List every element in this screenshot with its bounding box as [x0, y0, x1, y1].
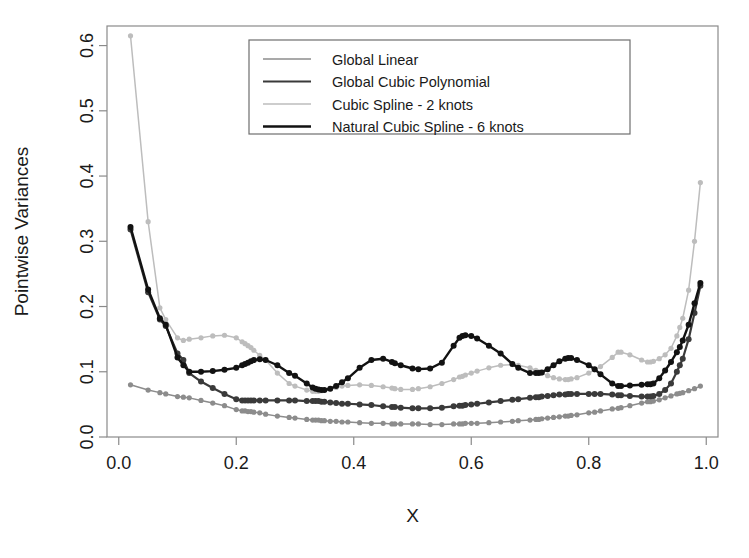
- data-point: [468, 401, 474, 407]
- data-point: [369, 383, 374, 388]
- data-point: [469, 370, 474, 375]
- data-point: [157, 390, 162, 395]
- data-point: [686, 288, 691, 293]
- data-point: [592, 391, 598, 397]
- data-point: [527, 370, 533, 376]
- data-point: [392, 421, 397, 426]
- data-point: [527, 395, 533, 401]
- data-point: [574, 357, 580, 363]
- data-point: [475, 369, 480, 374]
- data-point: [639, 382, 645, 388]
- data-point: [257, 356, 263, 362]
- data-point: [287, 381, 292, 386]
- data-point: [251, 348, 256, 353]
- data-point: [698, 384, 703, 389]
- data-point: [451, 343, 457, 349]
- legend-label-3: Natural Cubic Spline - 6 knots: [332, 119, 524, 135]
- data-point: [157, 315, 163, 321]
- y-tick-label: 0.6: [77, 33, 97, 58]
- data-point: [657, 397, 662, 402]
- data-point: [569, 376, 574, 381]
- data-point: [181, 395, 186, 400]
- data-point: [498, 398, 504, 404]
- data-point: [545, 366, 551, 372]
- data-point: [233, 365, 239, 371]
- data-point: [345, 401, 351, 407]
- data-point: [510, 419, 515, 424]
- data-point: [515, 396, 521, 402]
- data-point: [677, 362, 683, 368]
- data-point: [415, 366, 421, 372]
- data-point: [574, 412, 579, 417]
- y-tick-label: 0.5: [77, 98, 97, 123]
- data-point: [368, 357, 374, 363]
- data-point: [198, 335, 203, 340]
- data-point: [557, 376, 562, 381]
- data-point: [427, 405, 433, 411]
- data-point: [321, 387, 327, 393]
- data-point: [222, 391, 228, 397]
- data-point: [187, 337, 192, 342]
- data-point: [680, 337, 686, 343]
- data-point: [627, 382, 633, 388]
- data-point: [263, 357, 269, 363]
- data-point: [674, 333, 679, 338]
- data-point: [368, 402, 374, 408]
- data-point: [668, 393, 673, 398]
- data-point: [586, 391, 592, 397]
- data-point: [677, 325, 682, 330]
- data-point: [145, 287, 151, 293]
- data-point: [692, 300, 698, 306]
- data-point: [568, 391, 574, 397]
- data-point: [380, 403, 386, 409]
- data-point: [680, 390, 685, 395]
- data-point: [210, 333, 215, 338]
- data-point: [251, 397, 257, 403]
- data-point: [686, 322, 692, 328]
- data-point: [592, 366, 598, 372]
- x-tick-label: 0.0: [106, 453, 131, 473]
- data-point: [509, 397, 515, 403]
- data-point: [146, 387, 151, 392]
- data-point: [186, 369, 192, 375]
- data-point: [656, 391, 662, 397]
- data-point: [692, 239, 697, 244]
- data-point: [345, 375, 351, 381]
- data-point: [334, 419, 339, 424]
- data-point: [339, 401, 345, 407]
- data-point: [415, 405, 421, 411]
- data-point: [163, 322, 169, 328]
- data-point: [662, 387, 668, 393]
- data-point: [451, 421, 456, 426]
- data-point: [210, 385, 216, 391]
- data-point: [304, 387, 309, 392]
- data-point: [462, 402, 468, 408]
- data-point: [210, 400, 215, 405]
- data-point: [163, 391, 168, 396]
- data-point: [598, 364, 603, 369]
- data-point: [381, 384, 386, 389]
- data-point: [618, 405, 623, 410]
- y-axis-title: Pointwise Variances: [11, 147, 32, 317]
- data-point: [551, 415, 556, 420]
- data-point: [222, 367, 228, 373]
- data-point: [677, 344, 683, 350]
- data-point: [292, 373, 298, 379]
- data-point: [668, 346, 673, 351]
- data-point: [381, 421, 386, 426]
- data-point: [498, 351, 504, 357]
- data-point: [286, 397, 292, 403]
- data-point: [234, 407, 239, 412]
- data-point: [263, 397, 269, 403]
- data-point: [251, 410, 256, 415]
- data-point: [304, 417, 309, 422]
- data-point: [668, 359, 674, 365]
- data-point: [545, 393, 551, 399]
- y-tick-label: 0.1: [77, 359, 97, 384]
- x-axis-title: X: [406, 505, 419, 526]
- data-point: [181, 338, 186, 343]
- data-point: [157, 305, 162, 310]
- data-point: [222, 403, 227, 408]
- data-point: [662, 367, 668, 373]
- data-point: [416, 421, 421, 426]
